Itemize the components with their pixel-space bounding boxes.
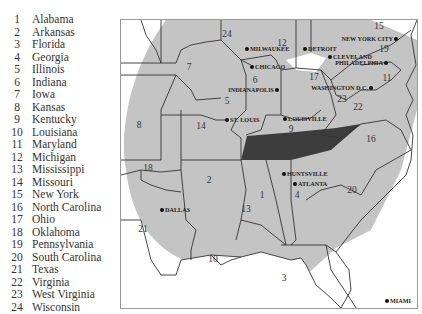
city-marker: CHICAGO (250, 63, 285, 70)
city-dot-icon (293, 182, 297, 186)
legend-item: 23West Virginia (6, 288, 118, 301)
legend-number: 5 (6, 63, 28, 75)
legend-item: 10Louisiana (6, 126, 118, 139)
city-marker: MILWAUKEE (245, 45, 289, 52)
legend-state-name: Louisiana (28, 126, 77, 138)
legend-state-name: North Carolina (28, 201, 101, 213)
legend-state-name: Mississippi (28, 163, 84, 175)
legend-state-name: Kansas (28, 101, 65, 113)
legend-item: 9Kentucky (6, 113, 118, 126)
legend-item: 1Alabama (6, 13, 118, 26)
city-label: ST. LOUIS (230, 116, 260, 123)
state-number-label: 1 (260, 190, 265, 200)
legend-item: 3Florida (6, 38, 118, 51)
city-marker: ST. LOUIS (225, 116, 260, 123)
legend-number: 23 (6, 288, 28, 300)
city-label: WASHINGTON D.C. (311, 84, 368, 91)
state-number-label: 5 (225, 96, 230, 106)
legend-state-name: Florida (28, 38, 65, 50)
legend-state-name: Kentucky (28, 113, 77, 125)
state-number-label: 3 (282, 273, 287, 283)
city-dot-icon (275, 88, 279, 92)
state-number-label: 11 (382, 73, 391, 83)
legend-state-name: West Virginia (28, 288, 95, 300)
state-number-label: 18 (143, 163, 153, 173)
map-frame: 123456789101112131415161718192021222324 … (120, 19, 418, 309)
city-dot-icon (225, 118, 229, 122)
city-dot-icon (385, 299, 389, 303)
legend-item: 11Maryland (6, 138, 118, 151)
legend-state-name: Indiana (28, 76, 66, 88)
legend-item: 6Indiana (6, 76, 118, 89)
state-number-label: 4 (295, 190, 300, 200)
city-marker: LOUISVILLE (283, 115, 327, 122)
city-dot-icon (282, 172, 286, 176)
legend-item: 8Kansas (6, 101, 118, 114)
state-number-label: 20 (347, 185, 357, 195)
city-dot-icon (245, 47, 249, 51)
legend-number: 10 (6, 126, 28, 138)
legend-number: 14 (6, 176, 28, 188)
legend-item: 24Wisconsin (6, 301, 118, 314)
state-number-label: 8 (137, 120, 142, 130)
legend-number: 22 (6, 276, 28, 288)
legend-state-name: Texas (28, 263, 59, 275)
legend-item: 22Virginia (6, 276, 118, 289)
city-label: DETROIT (308, 45, 337, 52)
city-label: MIAMI (390, 297, 412, 304)
legend-number: 21 (6, 263, 28, 275)
legend-state-name: Iowa (28, 88, 55, 100)
city-label: MILWAUKEE (250, 45, 289, 52)
legend-number: 1 (6, 13, 28, 25)
city-marker: ATLANTA (293, 180, 328, 187)
city-dot-icon (250, 65, 254, 69)
state-number-label: 14 (196, 121, 206, 131)
legend-state-name: South Carolina (28, 251, 101, 263)
city-dot-icon (328, 55, 332, 59)
legend-item: 7Iowa (6, 88, 118, 101)
legend-state-name: Maryland (28, 138, 77, 150)
legend-state-name: Wisconsin (28, 301, 80, 313)
legend-item: 2Arkansas (6, 26, 118, 39)
legend-number: 24 (6, 301, 28, 313)
legend-state-name: Missouri (28, 176, 73, 188)
legend-state-name: Alabama (28, 13, 74, 25)
legend-number: 19 (6, 238, 28, 250)
city-dot-icon (283, 117, 287, 121)
legend-number: 3 (6, 38, 28, 50)
city-marker: DALLAS (160, 206, 191, 213)
city-label: ATLANTA (298, 180, 328, 187)
legend-item: 4Georgia (6, 51, 118, 64)
state-number-label: 6 (253, 75, 258, 85)
state-number-label: 23 (337, 94, 347, 104)
legend-number: 11 (6, 138, 28, 150)
legend-number: 15 (6, 188, 28, 200)
legend-state-name: Oklahoma (28, 226, 80, 238)
legend-item: 15New York (6, 188, 118, 201)
legend-item: 14Missouri (6, 176, 118, 189)
state-number-label: 21 (138, 224, 148, 234)
city-marker: WASHINGTON D.C. (311, 84, 373, 91)
legend-state-name: Illinois (28, 63, 65, 75)
city-dot-icon (303, 47, 307, 51)
legend-state-name: New York (28, 188, 79, 200)
legend-state-name: Virginia (28, 276, 69, 288)
legend-number: 17 (6, 213, 28, 225)
state-number-label: 16 (366, 134, 376, 144)
city-label: LOUISVILLE (288, 115, 327, 122)
legend-number: 4 (6, 51, 28, 63)
legend-state-name: Michigan (28, 151, 76, 163)
city-label: INDIANAPOLIS (228, 86, 274, 93)
legend-item: 13Mississippi (6, 163, 118, 176)
city-marker: PHILADELPHIA (335, 59, 388, 66)
state-number-label: 7 (187, 62, 192, 72)
city-label: NEW YORK CITY (341, 35, 393, 42)
city-label: CHICAGO (255, 63, 285, 70)
city-dot-icon (384, 61, 388, 65)
legend-item: 17Ohio (6, 213, 118, 226)
legend-number: 16 (6, 201, 28, 213)
city-dot-icon (160, 208, 164, 212)
legend-item: 19Pennsylvania (6, 238, 118, 251)
legend-item: 21Texas (6, 263, 118, 276)
city-marker: NEW YORK CITY (341, 35, 398, 42)
